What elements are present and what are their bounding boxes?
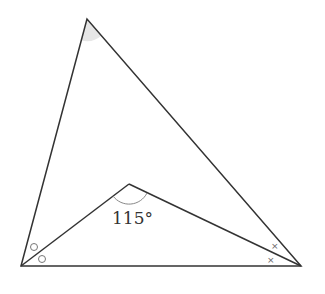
inner-line-right	[129, 184, 301, 266]
outer-triangle	[21, 19, 301, 266]
cross-mark-lower: ×	[267, 255, 275, 265]
inner-angle-arc	[113, 193, 147, 204]
circle-mark-lower	[39, 256, 46, 263]
triangle-diagram: 115° × ×	[0, 0, 325, 294]
cross-mark-upper: ×	[271, 241, 279, 251]
circle-mark-upper	[31, 244, 38, 251]
angle-label: 115°	[112, 208, 153, 228]
